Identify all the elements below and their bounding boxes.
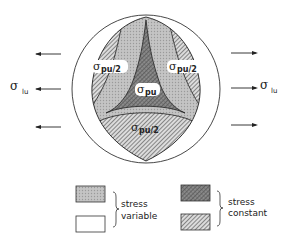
svg-text:σ: σ	[10, 79, 18, 93]
legend-swatch-hatched	[181, 214, 210, 230]
legend-swatch-crosshatched	[181, 185, 210, 201]
left-load-arrows	[35, 52, 61, 129]
legend-variable-line1: stress	[121, 199, 148, 209]
label-load-left: σ lu	[10, 79, 28, 96]
svg-text:σ: σ	[131, 121, 139, 134]
svg-text:σ: σ	[169, 60, 177, 73]
legend-brace-constant	[217, 191, 223, 226]
svg-text:σ: σ	[93, 60, 101, 73]
svg-text:pu: pu	[145, 88, 157, 97]
svg-text:pu/2: pu/2	[101, 65, 121, 74]
label-load-right: σ lu	[260, 78, 277, 95]
label-left-lobe: σ pu/2	[91, 60, 128, 74]
svg-text:pu/2: pu/2	[139, 126, 159, 135]
svg-text:pu/2: pu/2	[177, 65, 197, 74]
svg-text:σ: σ	[137, 83, 145, 96]
svg-text:lu: lu	[271, 87, 277, 95]
svg-text:lu: lu	[22, 88, 28, 96]
label-right-lobe: σ pu/2	[167, 60, 204, 74]
legend-swatch-dotted	[76, 186, 105, 202]
legend-variable-line2: variable	[121, 211, 158, 221]
stress-zone-diagram: σ pu/2 σ pu/2 σ pu σ pu/2 σ lu σ lu	[0, 0, 289, 247]
legend-constant-line1: stress	[228, 197, 255, 207]
legend-swatch-white	[76, 216, 105, 232]
legend-brace-variable	[113, 192, 119, 227]
svg-text:σ: σ	[260, 78, 268, 92]
right-load-arrows	[231, 51, 258, 127]
legend-constant-line2: constant	[228, 208, 268, 218]
label-center: σ pu	[135, 83, 160, 97]
legend: stress variable stress constant	[76, 185, 268, 232]
